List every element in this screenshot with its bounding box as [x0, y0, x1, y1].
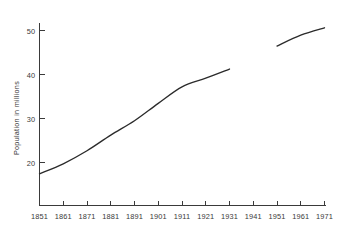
chart-canvas: 50 40 30 20 1851 1861 1871 1881 1891 190…	[0, 0, 342, 238]
y-tick-label-40: 40	[27, 71, 35, 80]
x-tick-marks	[40, 201, 325, 206]
x-tick-label-1941: 1941	[245, 212, 262, 221]
data-line-segment-prewar	[40, 69, 230, 174]
y-tick-label-20: 20	[27, 159, 35, 168]
y-tick-marks	[40, 31, 45, 163]
y-tick-label-30: 30	[27, 115, 35, 124]
x-tick-label-1881: 1881	[102, 212, 119, 221]
x-tick-label-1901: 1901	[150, 212, 167, 221]
population-line-chart: 50 40 30 20 1851 1861 1871 1881 1891 190…	[0, 0, 342, 238]
x-tick-label-1931: 1931	[221, 212, 238, 221]
y-tick-label-50: 50	[27, 27, 35, 36]
x-tick-label-1971: 1971	[316, 212, 333, 221]
data-line-segment-postwar	[277, 28, 325, 46]
x-tick-label-1911: 1911	[174, 212, 191, 221]
x-tick-label-1961: 1961	[292, 212, 309, 221]
x-tick-label-1851: 1851	[31, 212, 48, 221]
x-tick-label-1921: 1921	[197, 212, 214, 221]
x-tick-label-1951: 1951	[268, 212, 285, 221]
x-tick-label-1871: 1871	[78, 212, 95, 221]
x-tick-label-1861: 1861	[55, 212, 72, 221]
x-tick-label-1891: 1891	[126, 212, 143, 221]
y-axis-title: Population in millions	[12, 81, 21, 155]
